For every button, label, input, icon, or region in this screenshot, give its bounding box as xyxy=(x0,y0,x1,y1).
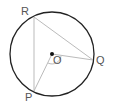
label-q: Q xyxy=(96,54,105,66)
segment-op xyxy=(34,54,52,91)
label-r: R xyxy=(21,5,29,17)
segment-rq xyxy=(34,17,93,60)
label-o: O xyxy=(53,54,62,66)
circle-diagram: O R Q P xyxy=(0,0,113,106)
label-p: P xyxy=(25,91,32,103)
